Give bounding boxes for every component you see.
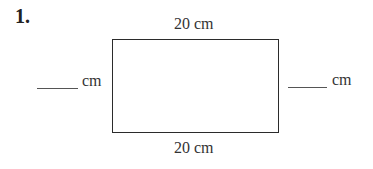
rectangle-shape bbox=[112, 39, 279, 133]
bottom-side-label: 20 cm bbox=[174, 139, 214, 157]
top-side-label: 20 cm bbox=[174, 15, 214, 33]
right-side-answer-blank[interactable] bbox=[288, 87, 327, 88]
left-side-unit: cm bbox=[82, 72, 102, 90]
left-side-answer-blank[interactable] bbox=[37, 88, 78, 89]
right-side-unit: cm bbox=[332, 71, 352, 89]
problem-number: 1. bbox=[15, 5, 30, 28]
